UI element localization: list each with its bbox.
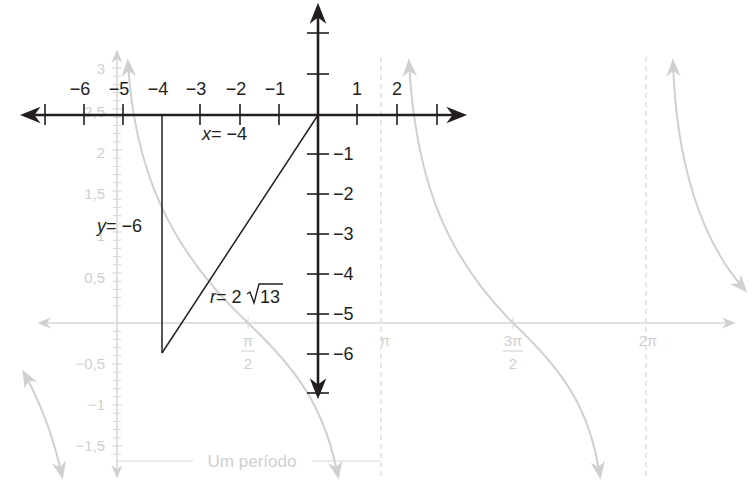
cot-branch-right-partial [673,62,745,290]
y-label: −3 [333,224,354,244]
half-pi-numerator: π [243,332,253,349]
cot-y-label: 1,5 [84,185,105,202]
x-value: = −4 [211,124,247,144]
cot-curves [24,62,745,476]
r-value: = 2 [216,287,242,307]
cot-y-label: 0,5 [84,269,105,286]
three-half-pi-numerator: 3π [504,332,523,349]
svg-text:y= −6: y= −6 [95,216,142,236]
period-indicator: Um período [118,452,380,471]
y-side-label: y= −6 [95,216,142,236]
y-label: −4 [333,264,354,284]
cot-y-label: −1,5 [75,437,105,454]
x-label: −2 [226,79,247,99]
r-radicand: 13 [260,287,280,307]
period-label: Um período [208,452,297,471]
cot-x-labels: π 2 π 3π 2 2π [241,332,657,372]
r-hypotenuse-label: r= 2 13 [210,284,283,307]
cot-y-labels: 3 2,5 2 1,5 1 0,5 −0,5 −1 −1,5 [75,60,105,454]
cot-y-label: 3 [97,60,105,77]
x-side-label: x= −4 [201,124,247,144]
triangle-hypotenuse [162,115,318,353]
cot-y-label: 2,5 [84,103,105,120]
cotangent-reference-triangle-figure: 3 2,5 2 1,5 1 0,5 −0,5 −1 −1,5 π 2 π 3π … [0,0,755,481]
svg-text:x= −4: x= −4 [201,124,247,144]
cot-y-label: 2 [97,144,105,161]
x-label: −6 [70,79,91,99]
x-label: −3 [186,79,207,99]
x-label: −4 [148,79,169,99]
svg-text:r= 2: r= 2 [210,287,242,307]
three-half-pi-denominator: 2 [509,355,517,372]
reference-triangle [162,115,318,353]
cot-y-label: −1 [88,396,105,413]
pi-label: π [380,332,390,349]
y-labels: −1 −2 −3 −4 −5 −6 [333,144,354,364]
y-label: −6 [333,344,354,364]
x-label: −5 [109,79,130,99]
x-label: 2 [392,79,402,99]
y-label: −2 [333,184,354,204]
x-labels: −6 −5 −4 −3 −2 −1 1 2 [70,79,402,99]
y-value: = −6 [106,216,142,236]
half-pi-denominator: 2 [244,355,252,372]
two-pi-label: 2π [639,332,658,349]
x-label: −1 [265,79,286,99]
cot-y-label: −0,5 [75,355,105,372]
x-label: 1 [352,79,362,99]
y-label: −5 [333,304,354,324]
cot-branch-left-partial [24,373,62,476]
y-label: −1 [333,144,354,164]
